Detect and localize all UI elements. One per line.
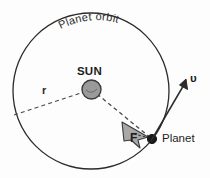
velocity-arrowhead xyxy=(180,79,188,90)
sun-label: SUN xyxy=(77,66,102,78)
orbit-label: Planet orbit xyxy=(56,10,120,31)
planet-label: Planet xyxy=(162,133,195,145)
radius-label: r xyxy=(42,85,46,96)
orbit-label-textpath: Planet orbit xyxy=(56,10,120,31)
force-label: F xyxy=(130,132,137,144)
diagram-canvas: Planet orbit xyxy=(0,0,210,178)
velocity-label: υ xyxy=(190,73,197,85)
sun-planet-dashed-line xyxy=(92,90,153,140)
orbit-diagram-figure: Planet orbit SUN Planet F r υ xyxy=(0,0,210,178)
sun-body xyxy=(82,80,101,99)
radius-dashed-line xyxy=(14,90,92,116)
